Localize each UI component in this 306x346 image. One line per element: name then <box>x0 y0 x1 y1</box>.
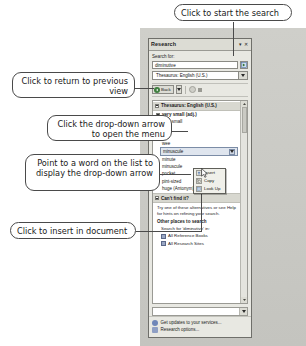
link-label: All Research Sites <box>168 241 204 247</box>
back-button[interactable]: Back <box>152 85 174 94</box>
search-row: diminutive <box>152 61 248 69</box>
chevron-down-glyph <box>241 74 245 77</box>
list-item[interactable]: minute <box>153 156 240 163</box>
menu-item-look-up[interactable]: Look Up <box>194 185 225 193</box>
source-select-row: Thesaurus: English (U.S.) <box>152 71 248 80</box>
pane-title-bar: Research ▾ ✕ <box>149 39 251 51</box>
menu-item-insert[interactable]: Insert <box>194 169 225 177</box>
research-options-link[interactable]: Research options... <box>152 326 248 334</box>
link-all-research-sites[interactable]: All Research Sites <box>153 240 240 248</box>
toolbar-separator <box>185 86 186 94</box>
collapse-icon[interactable] <box>155 104 159 108</box>
copy-glyph <box>197 179 201 183</box>
back-button-label: Back <box>161 85 171 94</box>
other-places-header: Other places to search <box>153 218 240 226</box>
menu-item-label: Look Up <box>204 186 220 192</box>
start-search-button[interactable] <box>240 61 248 69</box>
chevron-down-icon <box>177 88 181 91</box>
chevron-down-icon[interactable] <box>239 308 247 315</box>
chevron-down-icon[interactable] <box>229 149 235 155</box>
menu-item-label: Copy <box>204 178 214 184</box>
cant-find-body: Try one of these alternatives or see Hel… <box>153 203 240 217</box>
gear-icon <box>152 327 158 333</box>
leader-line-previous-view <box>135 88 154 89</box>
callout-previous-view: Click to return to previous view <box>12 72 135 98</box>
chevron-down-icon <box>243 299 246 301</box>
chevron-up-icon <box>243 103 246 105</box>
get-updates-label: Get updates to your services... <box>161 320 222 326</box>
link-label: All Reference Books <box>168 233 208 239</box>
info-icon <box>152 320 158 326</box>
close-icon[interactable]: ✕ <box>243 39 249 50</box>
results-header[interactable]: Thesaurus: English (U.S.) <box>153 102 240 111</box>
book-icon <box>161 234 166 239</box>
research-options-label: Research options... <box>161 327 200 333</box>
link-all-reference-books[interactable]: All Reference Books <box>153 233 240 241</box>
look-up-glyph <box>197 187 201 191</box>
mouse-cursor-icon <box>201 168 208 178</box>
back-dropdown-button[interactable] <box>176 85 182 94</box>
start-search-icon <box>241 62 247 68</box>
menu-item-copy[interactable]: Copy <box>194 177 225 185</box>
back-arrow-icon <box>154 87 160 93</box>
back-arrow-glyph <box>155 88 159 92</box>
callout-open-menu: Click the drop-down arrow to open the me… <box>47 115 172 141</box>
forward-button[interactable] <box>189 86 196 93</box>
pane-toolbar: Back <box>152 83 248 97</box>
pane-footer: Get updates to your services... Research… <box>149 316 251 337</box>
list-item-label: minuscule <box>163 149 229 155</box>
list-item-selected[interactable]: minuscule <box>160 147 238 156</box>
callout-point-word: Point to a word on the list to display t… <box>25 154 160 191</box>
look-up-icon <box>196 186 202 192</box>
chevron-down-glyph <box>230 150 234 153</box>
callout-start-search: Click to start the search <box>174 4 292 21</box>
scroll-down-button[interactable] <box>241 297 247 303</box>
results-header-label: Thesaurus: English (U.S.) <box>161 102 217 109</box>
leader-line-point-word <box>160 174 191 175</box>
collapse-icon[interactable] <box>155 196 159 200</box>
leader-line-insert-doc-h <box>136 231 201 232</box>
chevron-down-glyph <box>242 310 246 313</box>
list-item[interactable]: wee <box>153 140 240 147</box>
globe-icon <box>161 241 166 246</box>
source-select-value: Thesaurus: English (U.S.) <box>153 73 238 78</box>
page-title: Research <box>151 39 237 50</box>
leader-line-start-search-v <box>233 22 234 56</box>
copy-icon <box>196 178 202 184</box>
callout-insert-doc: Click to insert in document <box>10 222 136 239</box>
scrollbar-thumb[interactable] <box>242 107 247 133</box>
cant-find-label: Can't find it? <box>161 195 189 202</box>
stop-button[interactable] <box>198 88 202 92</box>
chevron-down-icon[interactable] <box>238 72 247 79</box>
bottom-select[interactable] <box>152 307 248 316</box>
cant-find-section[interactable]: Can't find it? <box>153 193 240 203</box>
results-scrollbar[interactable] <box>240 101 247 303</box>
source-select[interactable]: Thesaurus: English (U.S.) <box>152 71 248 80</box>
context-menu: Insert Copy Look Up <box>193 168 226 194</box>
search-input[interactable]: diminutive <box>152 61 238 69</box>
leader-line-open-menu <box>172 131 188 132</box>
get-updates-link[interactable]: Get updates to your services... <box>152 319 248 327</box>
